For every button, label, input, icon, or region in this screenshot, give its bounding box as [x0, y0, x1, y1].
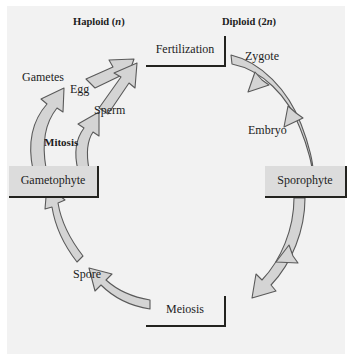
- stage-label-sperm: Sperm: [94, 104, 125, 116]
- stage-box-gametophyte: Gametophyte: [9, 166, 99, 198]
- stage-label-gametes: Gametes: [22, 71, 64, 83]
- stage-label-mitosis: Mitosis: [44, 137, 78, 148]
- stage-label-fertilization: Fertilization: [156, 42, 215, 59]
- stage-label-spore: Spore: [73, 268, 101, 280]
- header-diploid: Diploid (2n): [222, 17, 276, 28]
- header-haploid: Haploid (n): [73, 17, 125, 28]
- stage-box-sporophyte: Sporophyte: [265, 166, 347, 198]
- arrow-gametophyte-to-sperm: [76, 112, 99, 170]
- diagram-canvas: .arw { fill: #d4d4d4; stroke: #5a5a5a; s…: [0, 0, 356, 364]
- stage-label-gametophyte: Gametophyte: [21, 173, 86, 190]
- stage-box-meiosis: Meiosis: [146, 296, 226, 327]
- stage-label-egg: Egg: [70, 83, 89, 95]
- stage-label-meiosis: Meiosis: [166, 302, 204, 319]
- stage-label-sporophyte: Sporophyte: [277, 173, 332, 190]
- stage-box-fertilization: Fertilization: [146, 36, 226, 67]
- stage-label-zygote: Zygote: [245, 50, 279, 62]
- arrow-sporophyte-to-meiosis: [252, 198, 305, 298]
- stage-label-embryo: Embryo: [248, 124, 287, 136]
- arrow-gametophyte-to-egg: [31, 88, 64, 170]
